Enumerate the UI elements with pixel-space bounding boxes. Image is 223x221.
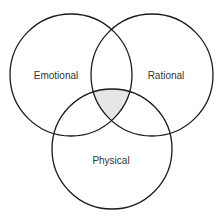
emotional-label: Emotional <box>34 70 78 81</box>
rational-label: Rational <box>148 70 185 81</box>
physical-label: Physical <box>92 155 129 166</box>
venn-diagram: Emotional Rational Physical <box>0 0 223 221</box>
